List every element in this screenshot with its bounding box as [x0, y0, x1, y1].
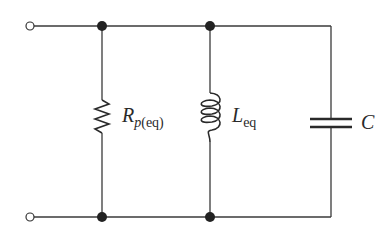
- capacitor-label: C: [361, 112, 374, 132]
- circuit-diagram: [0, 0, 390, 239]
- node-top-right: [205, 21, 215, 31]
- node-bottom-left: [97, 212, 107, 222]
- node-bottom-right: [205, 212, 215, 222]
- inductor-label: Leq: [232, 105, 256, 125]
- terminal-top-icon: [26, 22, 34, 30]
- resistor-icon: [95, 100, 109, 133]
- terminal-bottom-icon: [26, 213, 34, 221]
- resistor-label: Rp(eq): [122, 105, 164, 125]
- node-top-left: [97, 21, 107, 31]
- inductor-icon: [201, 93, 220, 142]
